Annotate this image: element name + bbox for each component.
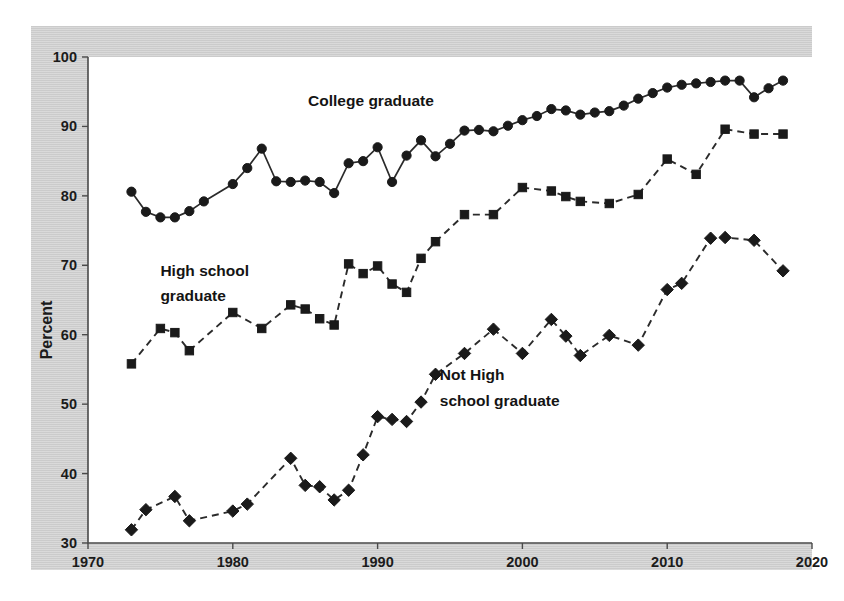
series-annotation: graduate (160, 287, 226, 304)
line-chart: 30405060708090100 1970198019902000201020… (0, 0, 844, 601)
data-point-circle (127, 187, 136, 196)
data-point-circle (185, 207, 194, 216)
data-point-circle (416, 136, 425, 145)
data-point-circle (518, 116, 527, 125)
data-point-square (287, 301, 295, 309)
data-point-square (171, 328, 179, 336)
x-tick-label: 2010 (651, 554, 683, 570)
data-point-circle (561, 106, 570, 115)
y-tick-label: 90 (61, 118, 77, 134)
data-point-circle (402, 151, 411, 160)
chart-figure: 30405060708090100 1970198019902000201020… (0, 0, 844, 601)
data-point-square (779, 130, 787, 138)
data-point-square (605, 199, 613, 207)
data-point-circle (156, 213, 165, 222)
data-point-square (301, 305, 309, 313)
series-annotation: school graduate (440, 392, 560, 409)
y-tick-label: 40 (61, 466, 77, 482)
x-tick-label: 1990 (361, 554, 393, 570)
data-point-circle (243, 163, 252, 172)
data-point-circle (431, 152, 440, 161)
data-point-circle (778, 76, 787, 85)
data-point-circle (721, 76, 730, 85)
data-point-circle (749, 93, 758, 102)
data-point-circle (735, 76, 744, 85)
data-point-square (576, 197, 584, 205)
data-point-circle (199, 197, 208, 206)
y-axis-title: Percent (38, 300, 55, 359)
data-point-square (634, 190, 642, 198)
y-tick-label: 60 (61, 327, 77, 343)
data-point-circle (489, 127, 498, 136)
data-point-circle (677, 80, 686, 89)
data-point-square (330, 321, 338, 329)
data-point-circle (257, 144, 266, 153)
data-point-circle (605, 107, 614, 116)
data-point-circle (692, 79, 701, 88)
data-point-square (388, 280, 396, 288)
x-tick-label: 2020 (796, 554, 828, 570)
data-point-square (562, 192, 570, 200)
data-point-circle (619, 101, 628, 110)
data-point-circle (330, 188, 339, 197)
data-point-circle (460, 126, 469, 135)
data-point-square (417, 254, 425, 262)
data-point-circle (648, 89, 657, 98)
data-point-circle (359, 157, 368, 166)
data-point-square (547, 187, 555, 195)
x-tick-label: 1980 (217, 554, 249, 570)
data-point-square (750, 130, 758, 138)
series-annotation: Not High (440, 366, 505, 383)
data-point-circle (170, 213, 179, 222)
data-point-circle (706, 77, 715, 86)
data-point-square (402, 288, 410, 296)
data-point-circle (315, 177, 324, 186)
y-tick-label: 100 (53, 49, 77, 65)
data-point-square (692, 170, 700, 178)
y-tick-label: 80 (61, 188, 77, 204)
data-point-circle (344, 159, 353, 168)
data-point-square (185, 346, 193, 354)
y-tick-label: 70 (61, 257, 77, 273)
x-axis: 197019801990200020102020 (72, 543, 828, 570)
data-point-square (127, 360, 135, 368)
data-point-circle (576, 110, 585, 119)
data-point-square (489, 210, 497, 218)
series-annotation: College graduate (308, 92, 434, 109)
chart-plot-wrapper: 30405060708090100 1970198019902000201020… (0, 0, 844, 601)
data-point-circle (445, 139, 454, 148)
y-tick-label: 50 (61, 396, 77, 412)
data-point-circle (764, 84, 773, 93)
data-point-circle (634, 94, 643, 103)
data-point-square (518, 183, 526, 191)
data-point-circle (547, 104, 556, 113)
data-point-circle (503, 121, 512, 130)
data-point-circle (301, 176, 310, 185)
data-point-square (344, 260, 352, 268)
data-point-circle (590, 108, 599, 117)
data-point-square (156, 324, 164, 332)
series-annotation: High school (160, 262, 249, 279)
data-point-square (229, 308, 237, 316)
data-point-square (373, 262, 381, 270)
data-point-circle (373, 143, 382, 152)
data-point-circle (663, 83, 672, 92)
data-point-circle (474, 125, 483, 134)
data-point-circle (286, 177, 295, 186)
x-tick-label: 1970 (72, 554, 104, 570)
y-axis: 30405060708090100 (53, 49, 88, 551)
data-point-circle (387, 177, 396, 186)
data-point-square (663, 155, 671, 163)
x-tick-label: 2000 (506, 554, 538, 570)
data-point-square (359, 269, 367, 277)
data-point-circle (272, 177, 281, 186)
data-point-square (315, 315, 323, 323)
data-point-circle (532, 111, 541, 120)
y-tick-label: 30 (61, 535, 77, 551)
data-point-square (431, 237, 439, 245)
data-point-square (258, 324, 266, 332)
data-point-circle (141, 207, 150, 216)
data-point-square (460, 210, 468, 218)
data-point-square (721, 125, 729, 133)
data-point-circle (228, 179, 237, 188)
